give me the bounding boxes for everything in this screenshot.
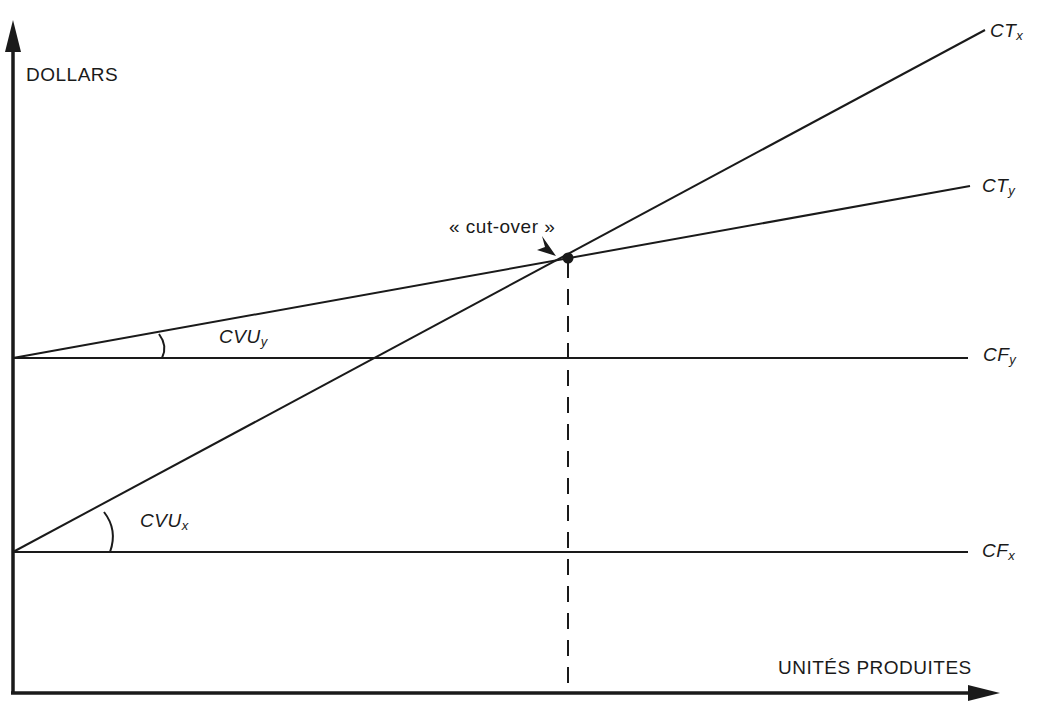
cvuy-label-sub: y: [261, 334, 268, 349]
cvux-label: CVUx: [140, 510, 189, 533]
cty-label-main: CT: [982, 175, 1008, 196]
y-axis-arrow-icon: [5, 20, 21, 52]
cvux-angle-arc: [104, 512, 113, 552]
cutover-point: [563, 253, 574, 264]
ctx-line: [13, 30, 985, 552]
x-axis-label: UNITÉS PRODUITES: [778, 657, 972, 679]
cty-label-sub: y: [1008, 183, 1015, 198]
ctx-label-main: CT: [990, 20, 1016, 41]
cfy-label-sub: y: [1009, 352, 1016, 367]
cfx-label: CFx: [982, 540, 1015, 563]
cfy-label: CFy: [983, 344, 1016, 367]
cost-chart: [0, 0, 1037, 701]
cvuy-label: CVUy: [219, 326, 268, 349]
ctx-label: CTx: [990, 20, 1023, 43]
cvuy-label-main: CVU: [219, 326, 261, 347]
cvuy-angle-arc: [159, 334, 164, 358]
cvux-label-sub: x: [182, 518, 189, 533]
x-axis-arrow-icon: [968, 685, 1000, 701]
y-axis-label: DOLLARS: [26, 64, 118, 86]
cty-label: CTy: [982, 175, 1015, 198]
ctx-label-sub: x: [1016, 28, 1023, 43]
cutover-pointer-icon: [537, 236, 556, 256]
cty-line: [13, 186, 970, 358]
cfy-label-main: CF: [983, 344, 1009, 365]
cfx-label-main: CF: [982, 540, 1008, 561]
cvux-label-main: CVU: [140, 510, 182, 531]
cutover-label: « cut-over »: [449, 216, 555, 238]
cfx-label-sub: x: [1008, 548, 1015, 563]
